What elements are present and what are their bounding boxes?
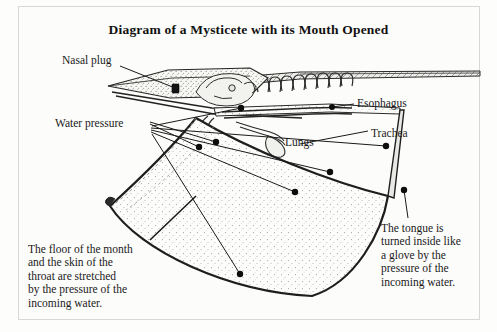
label-nasal-plug: Nasal plug [62,54,112,66]
leader-line-endpoint [213,139,219,145]
figure-page: Diagram of a Mysticete with its Mouth Op… [0,0,497,332]
leader-line-endpoint [327,169,333,175]
nasal-plug-marker [172,84,179,93]
leader-line-endpoint [292,189,298,195]
caption-floor-of-mouth: The floor of the month and the skin of t… [28,243,133,310]
leader-line-endpoint [196,144,202,150]
label-water-pressure: Water pressure [55,117,123,129]
leader-line-endpoint [237,271,243,277]
leader-line-endpoint [383,143,389,149]
label-esophagus: Esophagus [357,97,407,109]
leader-line-endpoint [329,104,335,110]
tongue-region [388,110,404,198]
leader-line-endpoint [401,187,407,193]
expanded-throat-pouch [106,118,389,296]
label-trachea: Trachea [371,127,408,139]
leader-line-tongue [404,190,408,218]
leader-line-endpoint [238,105,244,111]
caption-tongue: The tongue is turned inside like a glove… [381,222,461,289]
label-lungs: Lungs [285,136,314,148]
